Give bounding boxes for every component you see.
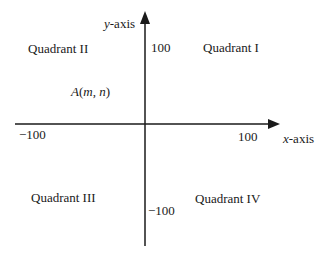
y-axis-label-suffix: -axis	[110, 16, 135, 31]
x-axis-label: x-axis	[283, 132, 314, 146]
y-axis-arrow-icon	[140, 11, 150, 24]
x-neg-tick-label: −100	[19, 128, 46, 142]
point-m: m	[83, 84, 92, 99]
x-pos-tick-label: 100	[238, 130, 258, 144]
y-neg-tick-label: −100	[148, 204, 175, 218]
point-a-label: A(m, n)	[71, 85, 110, 99]
quadrant-1-label: Quadrant I	[203, 41, 259, 55]
quadrant-2-label: Quadrant II	[28, 42, 88, 56]
point-name: A	[71, 84, 79, 99]
coordinate-plane-diagram: y-axis x-axis 100 −100 −100 100 Quadrant…	[0, 0, 328, 258]
point-close-paren: )	[106, 84, 110, 99]
x-axis-arrow-icon	[268, 119, 280, 129]
x-axis-label-suffix: -axis	[289, 131, 314, 146]
quadrant-4-label: Quadrant IV	[195, 192, 260, 206]
y-axis-label: y-axis	[104, 17, 135, 31]
axes-graphic	[0, 0, 328, 258]
quadrant-3-label: Quadrant III	[31, 191, 96, 205]
y-pos-tick-label: 100	[151, 41, 171, 55]
